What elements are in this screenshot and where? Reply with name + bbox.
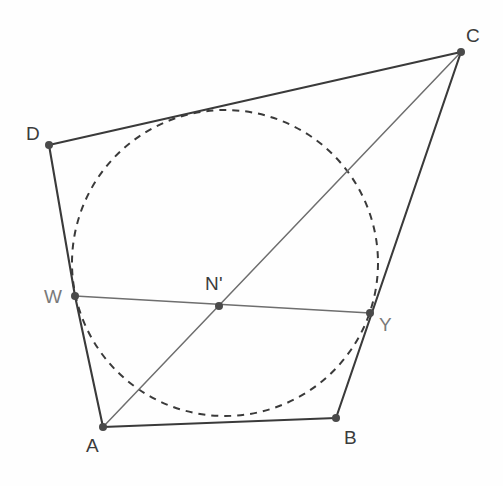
point-dot-W bbox=[71, 292, 79, 300]
point-dot-C bbox=[457, 48, 465, 56]
point-label-C: C bbox=[466, 25, 480, 46]
point-label-B: B bbox=[344, 427, 357, 448]
point-label-D: D bbox=[26, 123, 40, 144]
point-dot-B bbox=[332, 414, 340, 422]
geometry-figure: ABCDWYN' bbox=[0, 0, 503, 486]
point-label-Y: Y bbox=[379, 314, 392, 335]
point-label-A: A bbox=[86, 435, 99, 456]
side-CD bbox=[49, 52, 461, 145]
point-labels-group: ABCDWYN' bbox=[26, 25, 480, 456]
side-WA bbox=[75, 296, 103, 427]
point-dot-Y bbox=[366, 309, 374, 317]
point-dots-group bbox=[45, 48, 465, 431]
side-DW bbox=[49, 145, 75, 296]
side-AB bbox=[103, 418, 336, 427]
point-label-W: W bbox=[44, 286, 62, 307]
point-dot-D bbox=[45, 141, 53, 149]
diagonal-AC bbox=[103, 52, 461, 427]
point-dot-A bbox=[99, 423, 107, 431]
point-label-Nprime: N' bbox=[205, 273, 223, 294]
geometry-canvas: ABCDWYN' bbox=[0, 0, 503, 486]
segments-group bbox=[49, 52, 461, 427]
side-BC bbox=[336, 52, 461, 418]
point-dot-Nprime bbox=[215, 302, 223, 310]
inscribed-circle bbox=[72, 110, 378, 416]
